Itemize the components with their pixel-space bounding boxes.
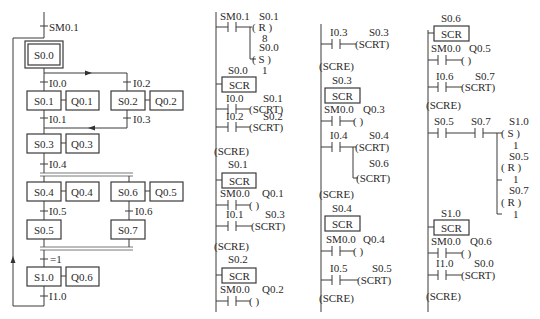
scrt-coil-s03: (SCRT) xyxy=(251,220,286,233)
action-q06: Q0.6 xyxy=(71,271,93,283)
output-q01: Q0.1 xyxy=(262,187,284,199)
coil-q02: ( ) xyxy=(249,295,259,308)
transition-eq1: =1 xyxy=(50,253,62,265)
action-q05: Q0.5 xyxy=(155,186,177,198)
scr-label-s03: S0.3 xyxy=(332,74,352,86)
scrt-coil-s04: (SCRT) xyxy=(355,141,390,154)
arrow-left-icon xyxy=(88,126,95,131)
ladder-column-2: I0.3 S0.3 (SCRT) (SCRE) S0.3 SCR SM0.0 Q… xyxy=(319,24,392,312)
scr-label-s00: S0.0 xyxy=(228,64,248,76)
action-q04: Q0.4 xyxy=(71,186,93,198)
scr-label-s06: S0.6 xyxy=(441,12,461,24)
sfc-ladder-diagram: SM0.1 S0.0 I0.0 I0.2 S0.1 Q0.1 S0.2 Q0.2 xyxy=(0,0,540,319)
transition-sm01: SM0.1 xyxy=(49,21,79,33)
transition-i00: I0.0 xyxy=(49,77,67,89)
contact-s05: S0.5 xyxy=(434,115,454,127)
contact-i02: I0.2 xyxy=(226,110,243,122)
scre-3: (SCRE) xyxy=(319,60,354,73)
scr-label-s01: S0.1 xyxy=(228,158,248,170)
contact-i01: I0.1 xyxy=(226,208,243,220)
scre-7: (SCRE) xyxy=(426,290,461,303)
output-q03: Q0.3 xyxy=(363,103,385,115)
contact-sm00-d: SM0.0 xyxy=(326,233,356,245)
scre-5: (SCRE) xyxy=(319,292,354,305)
output-q05: Q0.5 xyxy=(469,42,491,54)
coil-addr-s10: S1.0 xyxy=(509,115,529,127)
coil-q04: ( ) xyxy=(353,245,363,258)
contact-sm00-f: SM0.0 xyxy=(431,235,461,247)
scr-box-s04: SCR xyxy=(332,218,353,230)
transition-i04: I0.4 xyxy=(49,158,67,170)
coil-addr-s06: S0.6 xyxy=(369,157,389,169)
arrow-up-icon xyxy=(11,256,16,263)
scre-4: (SCRE) xyxy=(319,188,354,201)
scre-2: (SCRE) xyxy=(214,240,249,253)
scr-box-s03: SCR xyxy=(332,90,353,102)
scr-box-s06: SCR xyxy=(441,28,462,40)
transition-i06: I0.6 xyxy=(135,205,153,217)
contact-i06: I0.6 xyxy=(436,70,454,82)
coil-addr-s00: S0.0 xyxy=(259,41,279,53)
step-s03: S0.3 xyxy=(34,138,54,150)
step-s10: S1.0 xyxy=(34,271,54,283)
scr-box-s01: SCR xyxy=(229,175,250,187)
step-s02: S0.2 xyxy=(118,95,138,107)
contact-s07: S0.7 xyxy=(471,115,491,127)
scrt-coil-s00: (SCRT) xyxy=(461,269,496,282)
transition-i10: I1.0 xyxy=(49,290,67,302)
action-q03: Q0.3 xyxy=(71,138,93,150)
coil-addr-reset-s07: S0.7 xyxy=(509,184,529,196)
step-s01: S0.1 xyxy=(34,95,54,107)
contact-sm00-b: SM0.0 xyxy=(220,283,250,295)
transition-i01: I0.1 xyxy=(49,113,66,125)
reset-count-s07: 1 xyxy=(513,208,519,220)
contact-i10: I1.0 xyxy=(436,257,454,269)
scr-box-s10: SCR xyxy=(441,222,462,234)
step-s07: S0.7 xyxy=(118,224,138,236)
coil-q05: ( ) xyxy=(461,54,471,67)
contact-i03: I0.3 xyxy=(330,26,348,38)
scr-label-s04: S0.4 xyxy=(332,202,352,214)
contact-sm01: SM0.1 xyxy=(220,10,250,22)
output-q06: Q0.6 xyxy=(470,235,492,247)
scrt-coil-s05: (SCRT) xyxy=(357,274,392,287)
step-s06: S0.6 xyxy=(118,186,138,198)
transition-i02: I0.2 xyxy=(133,77,150,89)
step-s04: S0.4 xyxy=(34,186,54,198)
contact-sm00-e: SM0.0 xyxy=(431,42,461,54)
action-q02: Q0.2 xyxy=(155,95,177,107)
contact-sm00-a: SM0.0 xyxy=(220,187,250,199)
scre-1: (SCRE) xyxy=(214,145,249,158)
scre-6: (SCRE) xyxy=(426,99,461,112)
contact-i05: I0.5 xyxy=(330,262,348,274)
scr-box-s00: SCR xyxy=(229,79,250,91)
arrow-right-icon xyxy=(85,71,92,76)
scr-label-s02: S0.2 xyxy=(228,253,248,265)
ladder-column-1: SM0.1 S0.1 ( R ) 8 S0.0 ( S ) 1 S0.0 SCR… xyxy=(214,10,286,312)
sfc-chart: SM0.1 S0.0 I0.0 I0.2 S0.1 Q0.1 S0.2 Q0.2 xyxy=(11,12,184,306)
step-s00: S0.0 xyxy=(34,49,54,61)
output-q04: Q0.4 xyxy=(363,233,385,245)
step-s05: S0.5 xyxy=(34,224,54,236)
output-q02: Q0.2 xyxy=(262,283,284,295)
coil-addr-s03-scrt: S0.3 xyxy=(265,208,285,220)
contact-i04: I0.4 xyxy=(330,129,348,141)
coil-addr-s03: S0.3 xyxy=(369,26,389,38)
coil-addr-s05: S0.5 xyxy=(372,262,392,274)
ladder-column-3: S0.6 SCR SM0.0 Q0.5 ( ) I0.6 S0.7 (SCRT)… xyxy=(426,12,529,312)
coil-addr-s04: S0.4 xyxy=(369,129,389,141)
contact-sm00-c: SM0.0 xyxy=(324,103,354,115)
coil-q03: ( ) xyxy=(353,115,363,128)
coil-q06: ( ) xyxy=(461,247,471,260)
scrt-coil-s07: (SCRT) xyxy=(461,81,496,94)
transition-i05: I0.5 xyxy=(49,205,67,217)
scr-box-s02: SCR xyxy=(229,270,250,282)
action-q01: Q0.1 xyxy=(71,95,93,107)
scrt-coil-s02: (SCRT) xyxy=(249,121,284,134)
set-count: 1 xyxy=(262,64,268,76)
coil-addr-s00-scrt: S0.0 xyxy=(474,257,494,269)
scr-label-s10: S1.0 xyxy=(441,207,461,219)
contact-i00: I0.0 xyxy=(226,92,244,104)
scrt-coil-s06: (SCRT) xyxy=(356,172,391,185)
transition-i03: I0.3 xyxy=(133,113,151,125)
